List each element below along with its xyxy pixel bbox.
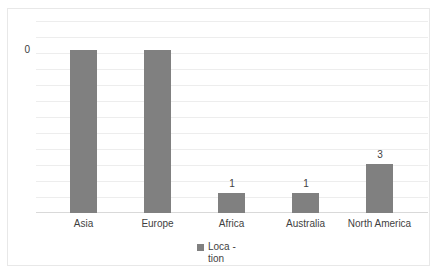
bar-europe[interactable] (144, 50, 171, 213)
legend-swatch-icon (197, 244, 204, 251)
category-label-north-america: North America (340, 217, 420, 231)
category-label-europe: Europe (118, 217, 198, 231)
legend-label-line1: Loca - (208, 241, 242, 253)
bar-africa[interactable] (218, 193, 245, 213)
bar-north-america[interactable] (366, 164, 393, 213)
y-axis: 0 (8, 9, 36, 213)
bar-value-north-america: 3 (360, 150, 400, 160)
y-axis-tick-label: 0 (24, 45, 30, 55)
legend-label-line2: tion (208, 253, 242, 265)
legend-label: Loca - tion (208, 241, 242, 265)
category-label-africa: Africa (192, 217, 272, 231)
chart-container[interactable]: 0 1 1 3 Asia Europe Africa Australia Nor… (7, 8, 430, 266)
bar-value-africa: 1 (212, 179, 252, 189)
category-label-australia: Australia (266, 217, 346, 231)
bar-australia[interactable] (292, 193, 319, 213)
category-label-asia: Asia (44, 217, 124, 231)
bar-asia[interactable] (70, 50, 97, 213)
chart-legend: Loca - tion (8, 241, 431, 265)
bar-value-australia: 1 (286, 179, 326, 189)
legend-entry-location[interactable]: Loca - tion (197, 241, 242, 265)
x-axis-categories: Asia Europe Africa Australia North Ameri… (36, 217, 428, 235)
bars-layer: 1 1 3 (36, 21, 428, 213)
